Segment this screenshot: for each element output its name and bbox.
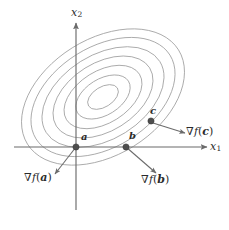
x1-axis-label-text: x: [210, 140, 216, 153]
x2-axis-label-text: x: [71, 6, 77, 19]
point-label-a: a: [81, 132, 87, 142]
nabla-icon: ∇: [24, 171, 32, 184]
gradient-label-b-close: ): [165, 173, 169, 186]
contour-level-6: [0, 1, 209, 194]
gradient-label-c: ∇f(c): [186, 126, 213, 137]
gradient-label-a-vector: a: [40, 171, 47, 184]
x1-axis-label-sub: 1: [217, 144, 222, 153]
point-marker-b: [123, 144, 129, 150]
grad-b-arrow: [126, 147, 156, 173]
point-marker-c: [148, 118, 154, 124]
nabla-icon: ∇: [186, 125, 194, 138]
grad-c-arrow: [153, 123, 185, 133]
contour-level-3: [38, 39, 167, 155]
grad-a-arrow: [55, 147, 76, 174]
point-label-c: c: [150, 106, 156, 116]
x2-axis-label: x2: [71, 7, 82, 19]
plot-canvas: [0, 0, 229, 230]
x1-axis-label: x1: [210, 141, 221, 153]
contour-level-1: [68, 66, 138, 128]
contour-level-5: [10, 13, 197, 182]
contour-level-2: [53, 52, 153, 142]
x2-axis-label-sub: 2: [78, 10, 83, 19]
point-label-b: b: [129, 131, 136, 141]
gradient-label-a: ∇f(a): [24, 172, 52, 183]
contour-plot-figure: x1 x2 a b c ∇f(a) ∇f(b) ∇f(c): [0, 0, 229, 230]
nabla-icon: ∇: [141, 173, 149, 186]
gradient-label-b: ∇f(b): [141, 174, 169, 185]
contour-level-group: [0, 1, 209, 194]
gradient-label-a-close: ): [48, 171, 52, 184]
gradient-label-c-close: ): [209, 125, 213, 138]
gradient-label-b-vector: b: [157, 173, 165, 186]
point-marker-a: [73, 144, 79, 150]
